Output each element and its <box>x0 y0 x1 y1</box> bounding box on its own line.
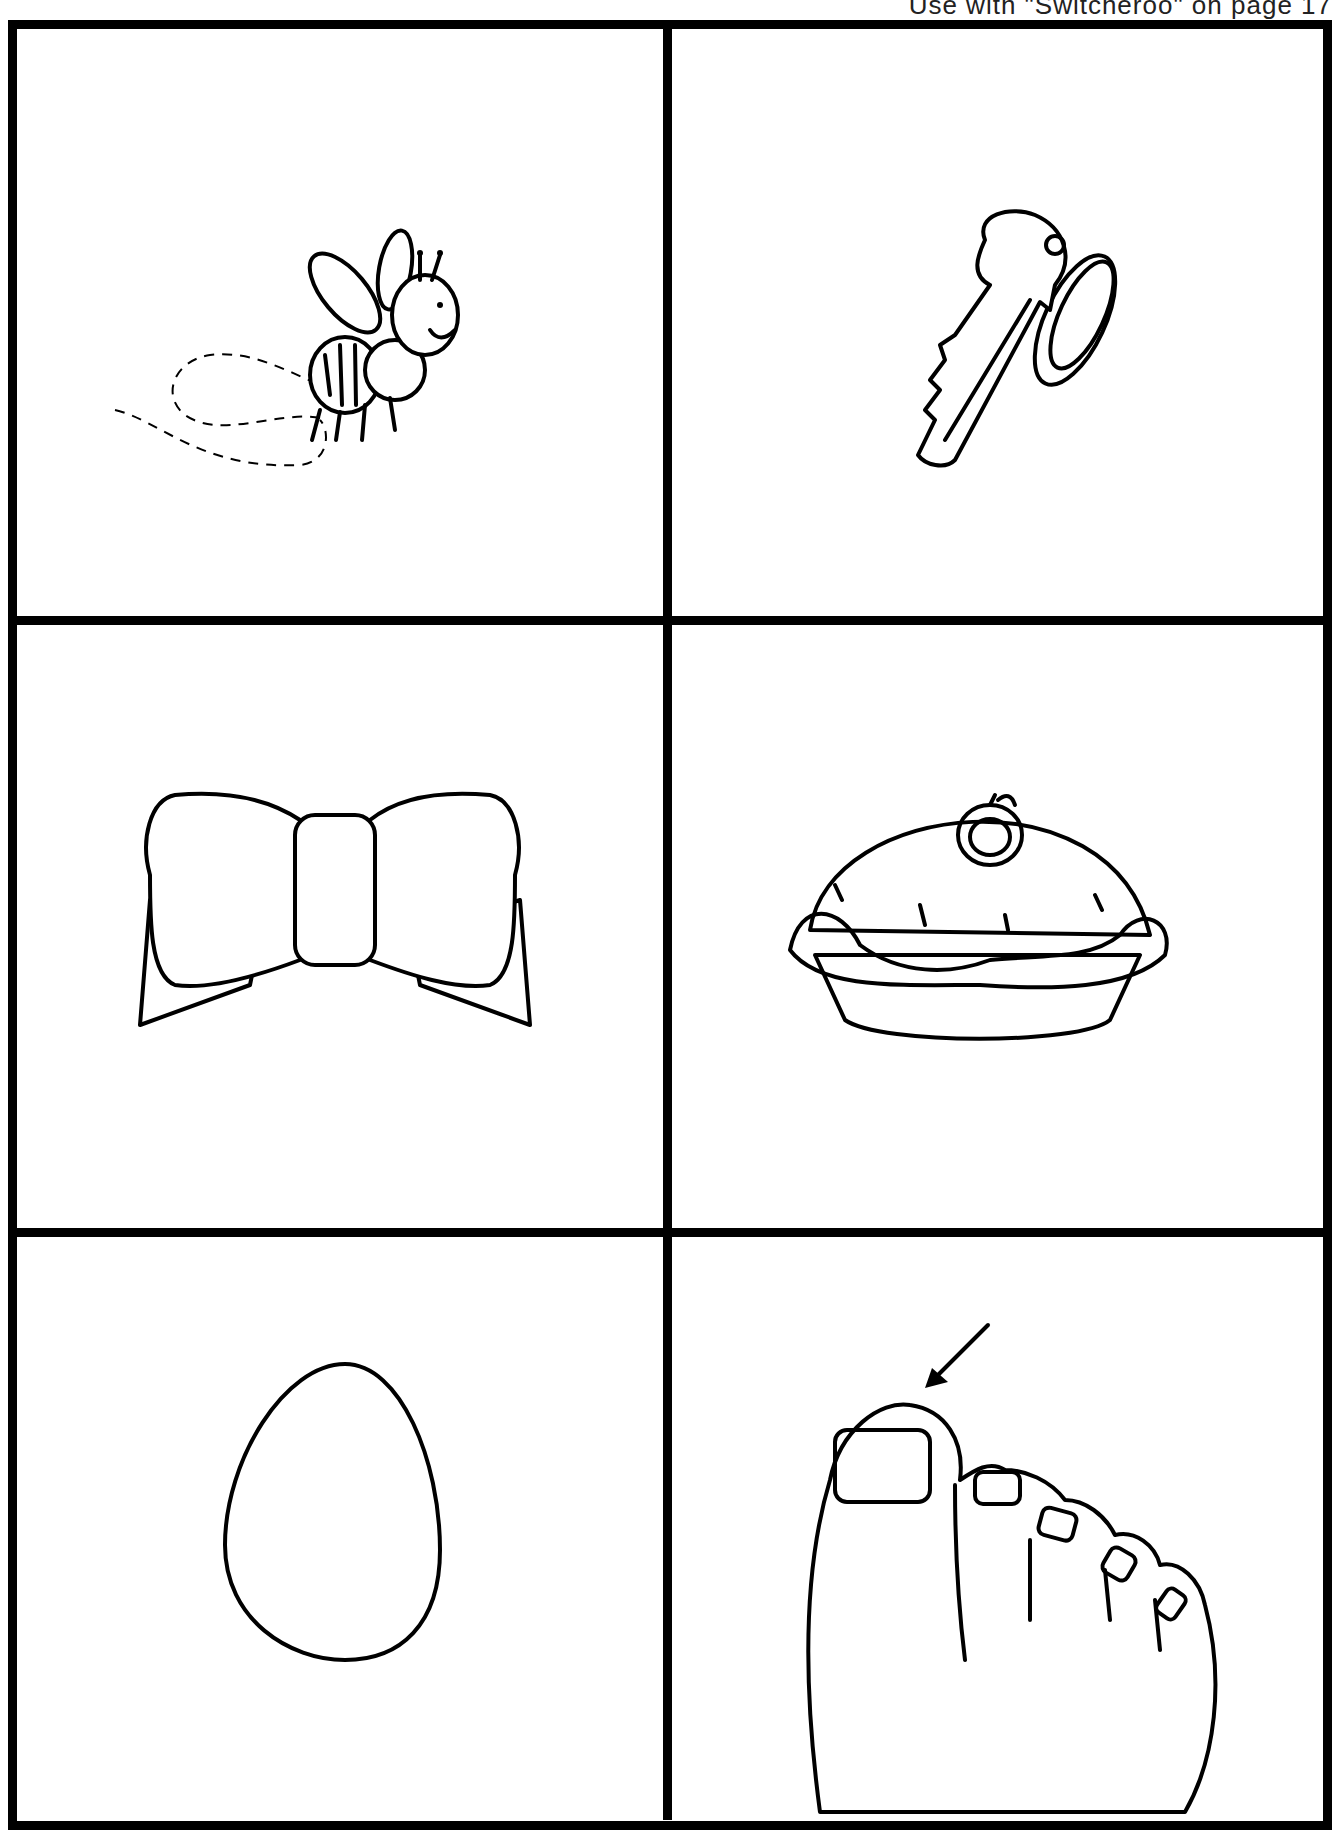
card-toe <box>0 0 1 1</box>
